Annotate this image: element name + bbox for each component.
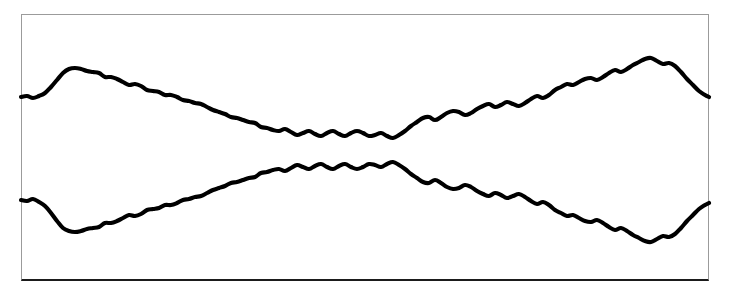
waveform-plot-frame [21,14,709,281]
waveform-figure-root [0,0,735,297]
